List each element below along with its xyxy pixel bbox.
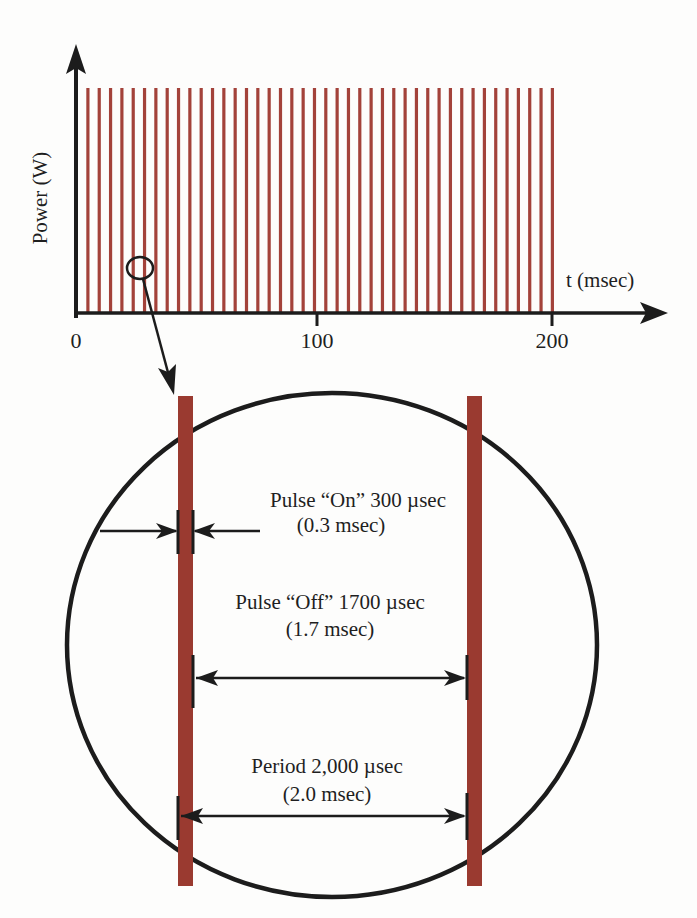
pulse-bar <box>324 88 327 312</box>
pulse-bar <box>336 88 339 312</box>
pulse-bar <box>426 88 429 312</box>
pulse-bar <box>313 88 316 312</box>
pulse-bar <box>200 88 203 312</box>
pulse-bar <box>381 88 384 312</box>
zoom-marker-circle <box>127 257 153 279</box>
pulse-bar <box>109 88 112 312</box>
pulse-bar <box>188 88 191 312</box>
pulse-on-sublabel: (0.3 msec) <box>297 513 386 537</box>
pulse-off-label: Pulse “Off” 1700 µsec <box>235 590 425 614</box>
pulse-bar <box>256 88 259 312</box>
y-axis-label: Power (W) <box>28 152 52 245</box>
pulse-bar <box>539 88 542 312</box>
pulse-bar <box>358 88 361 312</box>
pulse-bar <box>234 88 237 312</box>
pulse-bar <box>166 88 169 312</box>
period-sublabel: (2.0 msec) <box>283 782 372 806</box>
pulse-bars <box>86 88 554 312</box>
pulse-bar <box>279 88 282 312</box>
pulse-diagram: 0 100 200 t (msec) Power (W) Pulse “On” … <box>0 0 697 918</box>
pulse-bar <box>120 88 123 312</box>
pulse-bar <box>290 88 293 312</box>
pulse-bar <box>245 88 248 312</box>
pulse-on-label: Pulse “On” 300 µsec <box>270 488 446 512</box>
pulse-bar <box>505 88 508 312</box>
x-axis-label: t (msec) <box>566 268 634 292</box>
pulse-bar <box>494 88 497 312</box>
pulse-bar <box>460 88 463 312</box>
pulse-bar <box>551 88 554 312</box>
pulse-bar <box>222 88 225 312</box>
pulse-bar <box>483 88 486 312</box>
pulse-bar <box>404 88 407 312</box>
pulse-bar <box>415 88 418 312</box>
pulse-bar <box>528 88 531 312</box>
pulse-bar <box>392 88 395 312</box>
pulse-bar <box>302 88 305 312</box>
x-tick-label-0: 0 <box>71 328 82 353</box>
x-tick-label-200: 200 <box>536 328 569 353</box>
period-label: Period 2,000 µsec <box>251 754 403 778</box>
pulse-bar <box>471 88 474 312</box>
pulse-off-sublabel: (1.7 msec) <box>286 617 375 641</box>
pulse-bar <box>437 88 440 312</box>
x-tick-label-100: 100 <box>301 328 334 353</box>
pulse-bar <box>98 88 101 312</box>
pulse-bar <box>211 88 214 312</box>
pulse-bar <box>268 88 271 312</box>
pulse-bar <box>517 88 520 312</box>
pulse-bar <box>177 88 180 312</box>
pulse-bar <box>154 88 157 312</box>
inset-pulse-2 <box>467 396 482 886</box>
pulse-bar <box>449 88 452 312</box>
pulse-bar <box>86 88 89 312</box>
pulse-bar <box>370 88 373 312</box>
pulse-bar <box>347 88 350 312</box>
inset-circle <box>67 393 597 897</box>
